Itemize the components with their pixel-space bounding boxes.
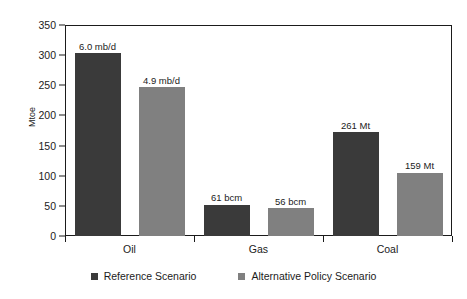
y-axis-tick-label: 100 [12, 170, 56, 181]
x-axis-category-coal: Coal [377, 243, 399, 255]
x-axis-category-gas: Gas [249, 243, 268, 255]
bar-value-label: 56 bcm [275, 197, 306, 207]
y-axis-tick-label: 250 [12, 80, 56, 91]
x-axis-category-oil: Oil [123, 243, 136, 255]
y-axis-tick-label: 350 [12, 20, 56, 31]
bar-oil-reference[interactable]: 6.0 mb/d [75, 53, 121, 236]
legend-label: Reference Scenario [104, 271, 197, 282]
x-axis-tick-mark [65, 236, 66, 242]
legend-swatch-icon [91, 273, 98, 280]
bar-value-label: 261 Mt [341, 121, 370, 131]
bar-gas-reference[interactable]: 61 bcm [204, 205, 250, 236]
y-axis-tick-label: 50 [12, 201, 56, 212]
x-axis-tick-mark [452, 236, 453, 242]
x-axis-tick-mark [194, 236, 195, 242]
bar-value-label: 4.9 mb/d [143, 76, 180, 86]
bar-value-label: 6.0 mb/d [79, 42, 116, 52]
legend-item[interactable]: Alternative Policy Scenario [238, 271, 376, 282]
y-axis-tick-label: 200 [12, 110, 56, 121]
y-axis-tick-label: 150 [12, 140, 56, 151]
y-axis: 350300250200150100500 [0, 0, 65, 299]
bar-coal-reference[interactable]: 261 Mt [333, 132, 379, 236]
bar-chart: Mtoe 350300250200150100500 6.0 mb/d4.9 m… [0, 0, 467, 299]
bar-value-label: 159 Mt [405, 161, 434, 171]
legend-swatch-icon [238, 273, 245, 280]
bar-oil-alternative[interactable]: 4.9 mb/d [139, 87, 185, 236]
y-axis-tick-label: 300 [12, 50, 56, 61]
bar-coal-alternative[interactable]: 159 Mt [397, 173, 443, 236]
bar-gas-alternative[interactable]: 56 bcm [268, 208, 314, 236]
bars-layer: 6.0 mb/d4.9 mb/d61 bcm56 bcm261 Mt159 Mt [65, 25, 452, 236]
chart-legend: Reference ScenarioAlternative Policy Sce… [0, 271, 467, 282]
legend-item[interactable]: Reference Scenario [91, 271, 197, 282]
legend-label: Alternative Policy Scenario [251, 271, 376, 282]
bar-value-label: 61 bcm [211, 193, 242, 203]
y-axis-tick-label: 0 [12, 231, 56, 242]
x-axis-tick-mark [323, 236, 324, 242]
